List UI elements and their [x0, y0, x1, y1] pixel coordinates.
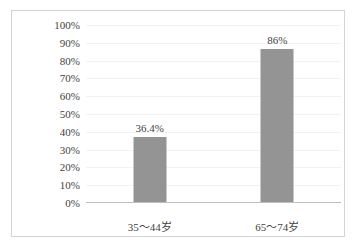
y-axis-tick-label: 100% [54, 20, 80, 31]
x-axis-category-label: 65～74岁 [214, 221, 342, 234]
x-axis-line [86, 202, 341, 203]
y-axis-tick-label: 90% [60, 37, 80, 48]
y-axis-tick-label: 0% [65, 198, 80, 209]
y-axis-tick-label: 70% [60, 73, 80, 84]
y-axis-tick-label: 10% [60, 180, 80, 191]
bar[interactable] [261, 49, 294, 202]
bar-slot: 86% [214, 24, 342, 202]
y-axis-tick-label: 40% [60, 126, 80, 137]
gridline [86, 203, 341, 204]
bar-value-label: 86% [267, 34, 287, 46]
y-axis-tick-label: 30% [60, 144, 80, 155]
y-axis-tick-label: 80% [60, 55, 80, 66]
chart-frame: 0%10%20%30%40%50%60%70%80%90%100% 36.4%8… [11, 10, 345, 237]
x-axis: 35～44岁65～74岁 [86, 217, 341, 239]
x-axis-category-label: 35～44岁 [86, 221, 214, 234]
y-axis-tick-label: 60% [60, 91, 80, 102]
bar[interactable] [133, 137, 166, 202]
y-axis-tick-label: 20% [60, 162, 80, 173]
y-axis: 0%10%20%30%40%50%60%70%80%90%100% [26, 25, 84, 217]
plot-area: 36.4%86% [86, 25, 341, 217]
bar-slot: 36.4% [86, 24, 214, 202]
y-axis-tick-label: 50% [60, 109, 80, 120]
bar-value-label: 36.4% [136, 122, 164, 134]
